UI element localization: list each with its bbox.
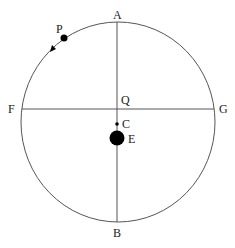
label-E: E (128, 132, 135, 146)
point-C (115, 122, 119, 126)
label-Q: Q (121, 93, 130, 107)
label-C: C (122, 117, 130, 131)
orbit-path (21, 22, 215, 222)
label-P: P (56, 22, 63, 36)
label-G: G (219, 102, 228, 116)
label-B: B (113, 226, 121, 240)
label-F: F (8, 102, 15, 116)
body-E (110, 131, 125, 146)
orbit-diagram: A B F G Q C E P (0, 0, 235, 248)
label-A: A (113, 8, 122, 22)
